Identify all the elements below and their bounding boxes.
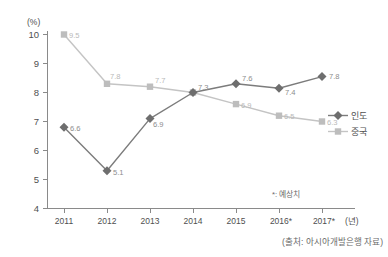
data-point-china-2015 [233, 101, 239, 107]
data-label-india-2013: 6.9 [153, 120, 164, 129]
x-axis-ticks [64, 208, 322, 213]
data-label-china-2013: 7.7 [155, 76, 166, 85]
data-point-india-2017 [318, 72, 327, 81]
legend-label-india: 인도 [351, 111, 367, 121]
y-tick-label-4: 4 [34, 203, 39, 214]
forecast-note: *: 예상치 [272, 189, 300, 199]
y-tick-label-9: 9 [34, 58, 39, 69]
data-label-india-2017: 7.8 [329, 72, 340, 81]
x-tick-label-2013: 2013 [141, 216, 160, 226]
x-tick-label-2014: 2014 [184, 216, 203, 226]
source-note: (출처: 아시아개발은행 자료) [282, 236, 383, 247]
x-axis-tick-labels: 2011 2012 2013 2014 2015 2016* 2017* [55, 216, 336, 226]
data-label-india-2015: 7.6 [242, 74, 253, 83]
y-tick-label-6: 6 [34, 145, 39, 156]
y-tick-label-5: 5 [34, 174, 39, 185]
x-axis-unit-label: (년) [345, 216, 359, 226]
legend-label-china: 중국 [351, 127, 367, 137]
data-point-china-2012 [104, 81, 110, 87]
y-tick-label-10: 10 [28, 29, 39, 40]
data-label-india-2016: 7.4 [285, 88, 296, 97]
data-point-china-2016 [276, 113, 282, 119]
data-point-china-2013 [147, 84, 153, 90]
data-point-india-2015 [232, 79, 241, 88]
data-label-china-2017: 6.3 [327, 118, 338, 127]
data-point-india-2016 [275, 84, 284, 93]
data-labels-china: 9.5 7.8 7.7 6.9 6.5 6.3 [69, 31, 338, 127]
x-tick-label-2017: 2017* [313, 216, 336, 226]
chart-container: 10 9 8 7 6 5 4 (%) 2011 2012 2013 2014 2… [0, 0, 388, 257]
data-point-china-2017 [319, 118, 325, 124]
series-line-china [64, 35, 322, 122]
data-label-india-2014: 7.3 [198, 83, 209, 92]
data-label-china-2011: 9.5 [69, 31, 80, 40]
legend-item-china[interactable]: 중국 [328, 127, 367, 137]
y-axis-ticks [43, 34, 47, 208]
legend-square-icon [335, 128, 341, 134]
data-label-china-2015: 6.9 [241, 101, 252, 110]
data-label-china-2012: 7.8 [110, 72, 121, 81]
data-label-india-2011: 6.6 [70, 124, 81, 133]
x-tick-label-2012: 2012 [98, 216, 117, 226]
data-point-china-2011 [61, 31, 67, 37]
series-markers-china [61, 31, 325, 124]
y-tick-label-8: 8 [34, 87, 39, 98]
x-tick-label-2011: 2011 [55, 216, 74, 226]
y-axis-tick-labels: 10 9 8 7 6 5 4 [28, 29, 39, 214]
line-chart: 10 9 8 7 6 5 4 (%) 2011 2012 2013 2014 2… [0, 0, 388, 257]
x-tick-label-2016: 2016* [270, 216, 293, 226]
data-label-china-2016: 6.5 [284, 112, 295, 121]
y-tick-label-7: 7 [34, 116, 39, 127]
y-axis-unit-label: (%) [27, 17, 40, 27]
x-tick-label-2015: 2015 [227, 216, 246, 226]
data-labels-india: 6.6 5.1 6.9 7.3 7.6 7.4 7.8 [70, 72, 340, 177]
data-label-india-2012: 5.1 [113, 168, 124, 177]
